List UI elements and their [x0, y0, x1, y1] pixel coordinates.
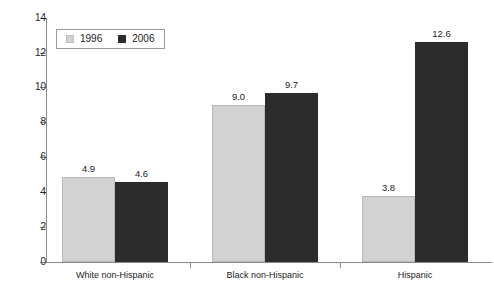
legend-label-1996: 1996 — [80, 34, 102, 44]
bar-label-2006-white-non-hispanic: 4.6 — [115, 169, 168, 179]
bar-1996-white-non-hispanic — [62, 177, 115, 262]
category-label-black-non-hispanic: Black non-Hispanic — [200, 270, 330, 281]
y-tick-label: 6 — [16, 152, 46, 162]
bar-label-2006-black-non-hispanic: 9.7 — [265, 80, 318, 90]
y-tick-label: 8 — [16, 117, 46, 127]
y-tick-label: 0 — [16, 257, 46, 267]
y-tick-label: 10 — [16, 82, 46, 92]
bar-2006-white-non-hispanic — [115, 182, 168, 262]
bar-label-1996-hispanic: 3.8 — [362, 183, 415, 193]
bar-2006-black-non-hispanic — [265, 93, 318, 262]
legend-swatch-2006-icon — [118, 35, 126, 43]
y-tick-label: 4 — [16, 187, 46, 197]
chart-legend: 1996 2006 — [56, 29, 165, 49]
legend-entry-1996: 1996 — [66, 34, 102, 44]
y-tick-2: 2 — [0, 227, 46, 228]
bar-2006-hispanic — [415, 42, 468, 262]
bar-1996-hispanic — [362, 196, 415, 262]
bar-1996-black-non-hispanic — [212, 105, 265, 262]
y-tick-8: 8 — [0, 122, 46, 123]
x-separator-tick-2 — [340, 262, 341, 268]
y-axis-line — [46, 18, 47, 263]
x-axis-line — [46, 262, 492, 263]
y-tick-label: 14 — [16, 13, 46, 23]
legend-label-2006: 2006 — [132, 34, 154, 44]
legend-entry-2006: 2006 — [118, 34, 154, 44]
x-separator-tick-1 — [190, 262, 191, 268]
category-label-white-non-hispanic: White non-Hispanic — [50, 270, 180, 281]
y-tick-0: 0 — [0, 262, 46, 263]
y-tick-12: 12 — [0, 53, 46, 54]
y-tick-4: 4 — [0, 192, 46, 193]
y-tick-label: 2 — [16, 222, 46, 232]
y-tick-6: 6 — [0, 157, 46, 158]
bar-label-1996-black-non-hispanic: 9.0 — [212, 92, 265, 102]
legend-swatch-1996-icon — [66, 35, 74, 43]
bar-label-2006-hispanic: 12.6 — [415, 29, 468, 39]
y-tick-label: 12 — [16, 48, 46, 58]
y-tick-14: 14 — [0, 18, 46, 19]
y-tick-10: 10 — [0, 87, 46, 88]
bar-label-1996-white-non-hispanic: 4.9 — [62, 164, 115, 174]
bar-chart: 1996 2006 14 12 10 8 6 4 2 0 — [0, 0, 494, 300]
category-label-hispanic: Hispanic — [350, 270, 480, 281]
